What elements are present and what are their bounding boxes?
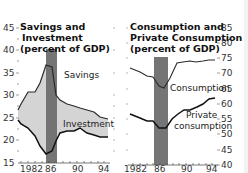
left-ytick-15: 15 [3,158,14,168]
consumption-label: Consumption [170,83,230,93]
shaded-period-band-right [154,57,168,165]
right-title-line3: (percent of GDP) [130,43,220,54]
consumption-chart: 85 80 75 70 65 60 55 50 45 40 1982 86 90… [124,21,243,173]
right-ytick-60: 60 [221,99,233,109]
private-label-line2: consumption [174,121,232,131]
right-xtick-90: 90 [181,164,193,173]
left-ytick-20: 20 [3,135,15,145]
left-ytick-35: 35 [3,68,14,78]
right-title-line2: Private Consumption [130,32,243,43]
left-ytick-30: 30 [3,90,15,100]
savings-investment-chart: 45 40 35 30 25 20 15 1982 86 90 94 Savin… [3,21,115,173]
right-ytick-40: 40 [221,160,233,170]
left-ytick-40: 40 [3,45,15,55]
investment-label: Investment [63,119,114,129]
right-panel-left-ticks [126,28,128,150]
right-ytick-45: 45 [221,145,232,155]
left-xtick-94: 94 [98,164,110,173]
private-label-line1: Private [186,110,218,120]
right-ytick-75: 75 [221,53,232,63]
left-y-ticks [16,28,19,151]
left-xtick-1982: 1982 [20,164,43,173]
right-xtick-86: 86 [154,164,166,173]
savings-label: Savings [64,70,99,80]
left-xtick-90: 90 [72,164,84,173]
right-xtick-1982: 1982 [124,164,147,173]
right-title-line1: Consumption and [130,21,224,32]
left-panel-right-ticks [113,28,115,151]
right-ytick-70: 70 [221,68,233,78]
left-xtick-86: 86 [45,164,57,173]
charts-canvas: 45 40 35 30 25 20 15 1982 86 90 94 Savin… [0,0,248,173]
left-ytick-25: 25 [3,113,14,123]
left-title-line3: (percent of GDP) [20,43,110,54]
right-xtick-94: 94 [206,164,218,173]
left-title-line1: Savings and [20,21,85,32]
left-ytick-45: 45 [3,23,14,33]
left-title-line2: Investment [22,32,83,43]
